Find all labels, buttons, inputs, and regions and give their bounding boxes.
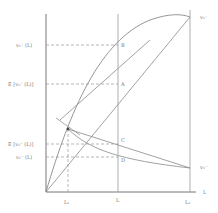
- label-L2: L₂: [185, 199, 190, 205]
- label-curve-vminus: v₀⁻: [199, 164, 208, 170]
- point-D: D: [121, 157, 125, 163]
- point-B: B: [121, 42, 125, 48]
- point-A: A: [120, 81, 125, 87]
- label-vplus-L: v₀⁺ (L): [15, 42, 32, 48]
- label-x-axis: L: [203, 189, 207, 195]
- intersection-point: [67, 128, 70, 131]
- line-upper: [60, 40, 150, 120]
- label-L1: L₁: [64, 199, 69, 205]
- label-L: L: [116, 197, 120, 203]
- point-C: C: [121, 137, 125, 143]
- line-E-vminus: [68, 129, 190, 168]
- label-curve-vplus: v₀⁺: [199, 14, 208, 20]
- line-left-steep: [56, 118, 80, 135]
- diagram-canvas: B A C D v₀⁺ (L) E [v₀⁺ (L)] E [v₀⁻ (L)] …: [0, 0, 218, 213]
- label-E-vminus-L: E [v₀⁻ (L)]: [8, 141, 33, 147]
- label-vminus-L: v₀⁻ (L): [15, 154, 32, 160]
- label-E-vplus-L: E [v₀⁺ (L)]: [8, 81, 33, 87]
